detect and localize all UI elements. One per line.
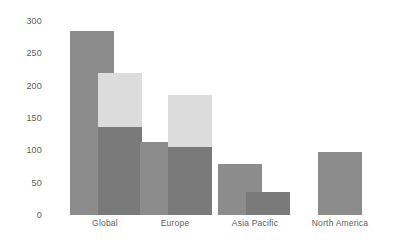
bar-global-3 — [98, 127, 142, 215]
y-tick-100: 100 — [26, 145, 42, 155]
bar-group-asia-pacific — [218, 21, 296, 215]
x-label-north-america: North America — [312, 218, 368, 228]
x-label-europe: Europe — [161, 218, 190, 228]
y-tick-150: 150 — [26, 113, 42, 123]
bar-asia-pacific-3 — [246, 192, 290, 215]
y-tick-300: 300 — [26, 16, 42, 26]
y-tick-250: 250 — [26, 48, 42, 58]
bar-group-europe — [140, 21, 218, 215]
bar-group-global — [70, 21, 148, 215]
y-tick-50: 50 — [32, 178, 42, 188]
bar-group-north-america — [300, 21, 378, 215]
bar-chart: 300 250 200 150 100 50 0 Global Europe A… — [0, 0, 409, 247]
y-axis: 300 250 200 150 100 50 0 — [0, 0, 50, 247]
y-tick-200: 200 — [26, 81, 42, 91]
bar-north-america-1 — [318, 152, 362, 215]
y-tick-0: 0 — [37, 210, 42, 220]
x-label-global: Global — [92, 218, 118, 228]
plot-area: Global Europe Asia Pacific North America — [50, 0, 409, 247]
x-label-asia-pacific: Asia Pacific — [232, 218, 278, 228]
bar-europe-3 — [168, 147, 212, 215]
